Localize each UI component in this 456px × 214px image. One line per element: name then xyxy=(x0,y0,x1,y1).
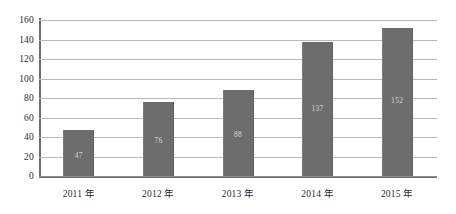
gridline-160: 160 xyxy=(39,20,437,21)
y-tick-label-120: 120 xyxy=(19,54,34,64)
x-tick-label-2015-年: 2015 年 xyxy=(381,186,414,200)
bar-value-label: 76 xyxy=(144,136,173,145)
bar-2011-年: 47 xyxy=(63,130,94,176)
y-tick-label-100: 100 xyxy=(19,74,34,84)
y-tick-label-80: 80 xyxy=(24,93,34,103)
plot-area: 020406080100120140160 477688137152 xyxy=(39,20,437,176)
bar-value-label: 47 xyxy=(64,151,93,160)
y-tick-label-0: 0 xyxy=(29,171,34,181)
gridline-100: 100 xyxy=(39,79,437,80)
y-tick-label-60: 60 xyxy=(24,113,34,123)
x-tick-label-2013-年: 2013 年 xyxy=(222,186,255,200)
y-tick-label-140: 140 xyxy=(19,35,34,45)
bar-2012-年: 76 xyxy=(143,102,174,176)
bar-value-label: 137 xyxy=(303,104,332,113)
bar-value-label: 88 xyxy=(224,130,253,139)
y-tick-label-160: 160 xyxy=(19,15,34,25)
x-tick-label-2011-年: 2011 年 xyxy=(63,186,95,200)
gridline-120: 120 xyxy=(39,59,437,60)
y-tick-label-40: 40 xyxy=(24,132,34,142)
bar-2014-年: 137 xyxy=(302,42,333,176)
bar-2015-年: 152 xyxy=(382,28,413,176)
gridline-0: 0 xyxy=(39,176,437,177)
bar-2013-年: 88 xyxy=(223,90,254,176)
y-tick-label-20: 20 xyxy=(24,152,34,162)
clipped-header-text: · · · · · · · · · · xyxy=(0,0,456,8)
gridline-140: 140 xyxy=(39,40,437,41)
bar-value-label: 152 xyxy=(383,96,412,105)
x-tick-label-2012-年: 2012 年 xyxy=(142,186,175,200)
bar-chart-figure: · · · · · · · · · · 02040608010012014016… xyxy=(0,0,456,214)
x-tick-label-2014-年: 2014 年 xyxy=(301,186,334,200)
